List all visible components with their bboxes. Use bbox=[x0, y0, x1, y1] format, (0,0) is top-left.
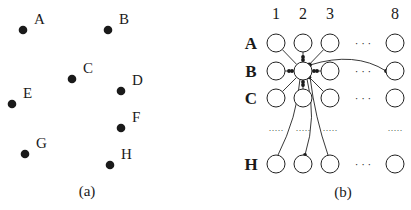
point-label: D bbox=[132, 72, 143, 88]
vertical-ellipsis: ····· bbox=[269, 125, 284, 135]
point-label: B bbox=[119, 11, 129, 27]
point-e: E bbox=[8, 85, 32, 108]
row-label-h: H bbox=[244, 155, 257, 174]
node-b1 bbox=[267, 62, 285, 80]
horizontal-ellipsis: · · · bbox=[355, 37, 372, 49]
vertical-ellipsis: ····· bbox=[388, 125, 403, 135]
point-marker bbox=[106, 161, 115, 170]
vertical-ellipsis: ····· bbox=[323, 125, 338, 135]
point-marker bbox=[8, 100, 17, 109]
row-label-a: A bbox=[245, 34, 258, 53]
point-marker bbox=[19, 26, 28, 35]
row-label-c: C bbox=[245, 89, 257, 108]
horizontal-ellipsis: · · · bbox=[355, 92, 372, 104]
point-a: A bbox=[19, 11, 45, 34]
panel-a: ABCDEFGH(a) bbox=[8, 11, 143, 200]
point-marker bbox=[117, 124, 126, 133]
point-marker bbox=[117, 87, 126, 96]
caption-b: (b) bbox=[334, 184, 352, 201]
point-c: C bbox=[68, 60, 93, 83]
figure: ABCDEFGH(a) 1238ABCH· · ·· · ·· · ·· · ·… bbox=[0, 0, 411, 210]
panel-b: 1238ABCH· · ·· · ·· · ·· · ·············… bbox=[244, 5, 404, 201]
node-a8 bbox=[386, 34, 404, 52]
point-label: F bbox=[132, 109, 140, 125]
point-marker bbox=[104, 26, 113, 35]
point-marker bbox=[21, 150, 30, 159]
column-label-8: 8 bbox=[391, 5, 399, 22]
point-b: B bbox=[104, 11, 129, 34]
node-h2 bbox=[294, 155, 312, 173]
node-c2 bbox=[294, 89, 312, 107]
point-h: H bbox=[106, 146, 132, 169]
caption-a: (a) bbox=[79, 183, 96, 200]
point-label: G bbox=[36, 135, 47, 151]
node-a3 bbox=[321, 34, 339, 52]
column-label-1: 1 bbox=[272, 5, 280, 22]
point-label: C bbox=[83, 60, 93, 76]
node-b8 bbox=[386, 62, 404, 80]
edge-b2-c1 bbox=[282, 77, 296, 91]
node-c1 bbox=[267, 89, 285, 107]
horizontal-ellipsis: · · · bbox=[355, 65, 372, 77]
node-b2 bbox=[294, 62, 312, 80]
edge-endpoint bbox=[315, 69, 319, 73]
edge-endpoint bbox=[287, 69, 291, 73]
point-label: A bbox=[34, 11, 45, 27]
edge-b2-h3 bbox=[310, 77, 328, 155]
point-label: H bbox=[121, 146, 132, 162]
node-c3 bbox=[321, 89, 339, 107]
node-a1 bbox=[267, 34, 285, 52]
point-marker bbox=[68, 75, 77, 84]
node-h8 bbox=[386, 155, 404, 173]
point-d: D bbox=[117, 72, 143, 95]
edge-endpoint bbox=[301, 83, 305, 87]
point-label: E bbox=[23, 85, 32, 101]
vertical-ellipsis: ····· bbox=[296, 125, 311, 135]
edge-b2-a1 bbox=[282, 49, 297, 64]
row-label-b: B bbox=[245, 62, 256, 81]
node-c8 bbox=[386, 89, 404, 107]
point-g: G bbox=[21, 135, 47, 158]
node-b3 bbox=[321, 62, 339, 80]
edge-endpoint bbox=[301, 55, 305, 59]
column-label-3: 3 bbox=[326, 5, 334, 22]
node-a2 bbox=[294, 34, 312, 52]
point-f: F bbox=[117, 109, 141, 132]
node-h1 bbox=[267, 155, 285, 173]
column-label-2: 2 bbox=[299, 5, 307, 22]
node-h3 bbox=[321, 155, 339, 173]
horizontal-ellipsis: · · · bbox=[355, 158, 372, 170]
